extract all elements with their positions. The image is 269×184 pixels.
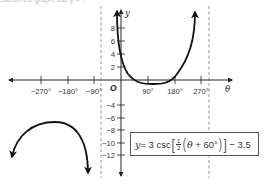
eq-left-paren: ( <box>183 137 186 151</box>
eq-equals-csc: = 3 csc <box>140 139 170 150</box>
svg-text:8: 8 <box>111 24 115 33</box>
eq-right-paren: ) <box>219 137 222 151</box>
y-axis-label: y <box>124 8 130 18</box>
svg-text:−90°: −90° <box>86 87 102 96</box>
svg-text:−270°: −270° <box>31 87 51 96</box>
x-axis-label: θ <box>225 84 230 94</box>
svg-text:−8: −8 <box>106 126 115 135</box>
svg-text:−10: −10 <box>102 139 115 148</box>
svg-text:2: 2 <box>111 63 115 72</box>
upper-branch-curve <box>117 12 195 84</box>
eq-right-bracket: ] <box>223 137 226 152</box>
svg-text:−6: −6 <box>106 114 115 123</box>
eq-left-bracket: [ <box>171 137 174 152</box>
svg-text:90°: 90° <box>142 87 153 96</box>
equation-box: y = 3 csc [ 1 2 ( θ + 60° ) ] − 3.5 <box>130 132 259 156</box>
svg-text:−4: −4 <box>106 101 115 110</box>
svg-text:4: 4 <box>111 50 115 59</box>
svg-text:6: 6 <box>111 37 115 46</box>
svg-text:180°: 180° <box>167 87 183 96</box>
eq-plus-60: + 60° <box>193 139 218 150</box>
graph-canvas: Sketch the graph; use y = ... −270° −180… <box>0 0 269 184</box>
x-tick-labels: −270° −180° −90° 90° 180° 270° <box>31 87 209 96</box>
svg-text:−12: −12 <box>102 151 115 160</box>
eq-tail: − 3.5 <box>227 139 251 150</box>
origin-label: O <box>110 83 117 93</box>
header-partial-text: Sketch the graph; use y = ... <box>0 0 87 4</box>
lower-branch-right <box>55 122 88 173</box>
eq-fraction: 1 2 <box>176 138 181 151</box>
svg-text:−180°: −180° <box>58 87 78 96</box>
lower-branch-left <box>12 122 55 157</box>
svg-text:270°: 270° <box>193 87 209 96</box>
